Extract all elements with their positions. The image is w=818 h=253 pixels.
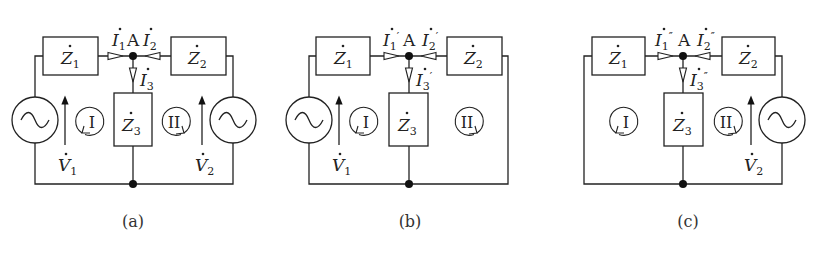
phasor-dot xyxy=(681,112,684,115)
loop-ii-label: II xyxy=(168,113,181,132)
current-i2-label: I2′ xyxy=(421,30,439,53)
phasor-dot xyxy=(119,28,122,31)
current-i2-label: I2 xyxy=(142,30,157,53)
phasor-dot xyxy=(698,68,701,71)
loop-i-label: I xyxy=(89,113,95,132)
wire xyxy=(226,56,233,97)
wire xyxy=(309,56,316,97)
current-i2-label: I2″ xyxy=(696,30,715,53)
phasor-dot xyxy=(130,112,133,115)
caption-a: (a) xyxy=(122,212,144,231)
phasor-dot xyxy=(406,112,409,115)
phasor-dot xyxy=(747,45,750,48)
source-v1-label: V1 xyxy=(58,155,77,178)
current-arrow-i3 xyxy=(680,68,687,82)
loop-ii-label: II xyxy=(720,113,733,132)
wire xyxy=(35,56,43,97)
current-arrow-i1 xyxy=(108,53,123,60)
current-i3-label: I3 xyxy=(139,70,154,93)
current-arrow-i3 xyxy=(406,68,413,82)
node-a xyxy=(405,52,413,60)
node-a xyxy=(129,52,137,60)
current-arrow-i2 xyxy=(695,53,710,60)
caption-c: (c) xyxy=(677,212,698,231)
current-i3-label: I3″ xyxy=(689,70,708,93)
phasor-dot xyxy=(430,28,433,31)
source-v2-label: V2 xyxy=(744,155,763,178)
caption-b: (b) xyxy=(399,212,422,231)
node-bottom xyxy=(129,180,137,188)
phasor-dot xyxy=(69,45,72,48)
phasor-dot xyxy=(705,28,708,31)
phasor-dot xyxy=(391,28,394,31)
loop-ii-label: II xyxy=(461,113,474,132)
current-i1-label: I1″ xyxy=(654,30,673,53)
phasor-dot xyxy=(150,28,153,31)
current-arrow-i1 xyxy=(384,53,399,60)
panel-c: Z1 Z2 Z3 I1″ A I2″ I3″ V2 I II (c) xyxy=(584,28,805,231)
node-a-label: A xyxy=(677,30,691,50)
loop-i-label: I xyxy=(623,113,629,132)
node-a xyxy=(679,52,687,60)
current-arrow-i1 xyxy=(658,53,673,60)
phasor-dot xyxy=(663,28,666,31)
node-a-label: A xyxy=(126,30,140,50)
node-bottom xyxy=(405,180,413,188)
loop-i-label: I xyxy=(363,113,369,132)
current-i1-label: I1 xyxy=(111,30,126,53)
node-a-label: A xyxy=(402,30,416,50)
current-arrow-i2 xyxy=(421,53,436,60)
node-bottom xyxy=(679,180,687,188)
phasor-dot xyxy=(424,68,427,71)
panel-a: Z1 Z2 Z3 I1 A I2 I3 V1 V2 xyxy=(12,28,256,231)
current-i1-label: I1′ xyxy=(382,30,400,53)
source-v1-label: V1 xyxy=(332,155,351,178)
phasor-dot xyxy=(617,45,620,48)
current-i3-label: I3′ xyxy=(415,70,433,93)
phasor-dot xyxy=(196,45,199,48)
phasor-dot xyxy=(342,45,345,48)
current-arrow-i2 xyxy=(145,53,160,60)
panel-b: Z1 Z2 Z3 I1′ A I2′ I3′ V1 I II (b) xyxy=(286,28,508,231)
superposition-circuit-figure: Z1 Z2 Z3 I1 A I2 I3 V1 V2 xyxy=(0,0,818,253)
phasor-dot xyxy=(147,68,150,71)
phasor-dot xyxy=(472,45,475,48)
wire xyxy=(775,56,782,97)
source-v2-label: V2 xyxy=(195,155,214,178)
current-arrow-i3 xyxy=(130,68,137,82)
